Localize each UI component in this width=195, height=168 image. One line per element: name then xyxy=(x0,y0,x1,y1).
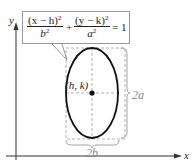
callout-pointer xyxy=(52,44,67,60)
plus-sign: + xyxy=(66,21,72,33)
x-term-numerator: (x − h) xyxy=(28,14,58,26)
y-axis-label: y xyxy=(9,14,14,26)
major-axis-label: 2a xyxy=(132,88,144,103)
center-point xyxy=(89,90,94,95)
minor-axis-label: 2b xyxy=(86,146,98,161)
x-axis-arrow-icon xyxy=(174,154,182,159)
fraction-x-term: (x − h)2 b2 xyxy=(27,14,63,39)
equation-box: (x − h)2 b2 + (y − k)2 a2 = 1 xyxy=(22,11,130,44)
major-axis-brace xyxy=(121,48,130,138)
y-term-numerator: (y − k) xyxy=(75,14,105,26)
equals-one: = 1 xyxy=(112,21,126,33)
x-axis-label: x xyxy=(184,149,189,161)
y-axis-arrow-icon xyxy=(14,22,19,30)
center-label: (h, k) xyxy=(65,79,88,91)
fraction-y-term: (y − k)2 a2 xyxy=(74,14,110,39)
